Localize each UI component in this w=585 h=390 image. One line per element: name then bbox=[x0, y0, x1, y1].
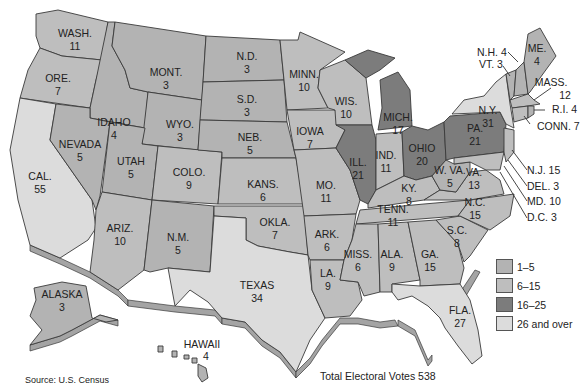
callout-ct: CONN. 7 bbox=[537, 120, 580, 132]
legend-swatch bbox=[496, 297, 513, 312]
legend-swatch bbox=[496, 278, 513, 293]
svg-text:VA.13: VA.13 bbox=[466, 166, 482, 191]
callout-nh: N.H. 4 bbox=[477, 46, 507, 58]
legend-item: 26 and over bbox=[496, 314, 572, 333]
source-note: Source: U.S. Census bbox=[25, 375, 109, 385]
legend-label: 16–25 bbox=[517, 299, 546, 311]
legend-label: 6–15 bbox=[517, 280, 540, 292]
legend-item: 6–15 bbox=[496, 276, 572, 295]
svg-text:PA.21: PA.21 bbox=[467, 122, 483, 147]
legend-label: 1–5 bbox=[517, 261, 535, 273]
legend: 1–5 6–15 16–25 26 and over bbox=[496, 257, 572, 333]
state-rhode-island bbox=[528, 106, 534, 118]
legend-swatch bbox=[496, 259, 513, 274]
callout-ri: R.I. 4 bbox=[552, 103, 577, 115]
state-florida bbox=[392, 284, 482, 364]
legend-label: 26 and over bbox=[517, 318, 572, 330]
callout-de: DEL. 3 bbox=[527, 180, 559, 192]
callout-ma-name: MASS. bbox=[535, 76, 568, 88]
state-hawaii bbox=[158, 346, 208, 382]
callout-vt: VT. 3 bbox=[479, 58, 503, 70]
legend-item: 1–5 bbox=[496, 257, 572, 276]
callout-nj: N.J. 15 bbox=[527, 164, 560, 176]
legend-swatch bbox=[496, 316, 513, 331]
callout-ma-votes: 12 bbox=[559, 89, 571, 101]
total-electoral-votes: Total Electoral Votes 538 bbox=[320, 370, 436, 382]
state-connecticut bbox=[512, 106, 528, 122]
callout-md: MD. 10 bbox=[527, 195, 561, 207]
state-new-jersey bbox=[504, 128, 514, 162]
callout-dc: D.C. 3 bbox=[527, 211, 557, 223]
legend-item: 16–25 bbox=[496, 295, 572, 314]
